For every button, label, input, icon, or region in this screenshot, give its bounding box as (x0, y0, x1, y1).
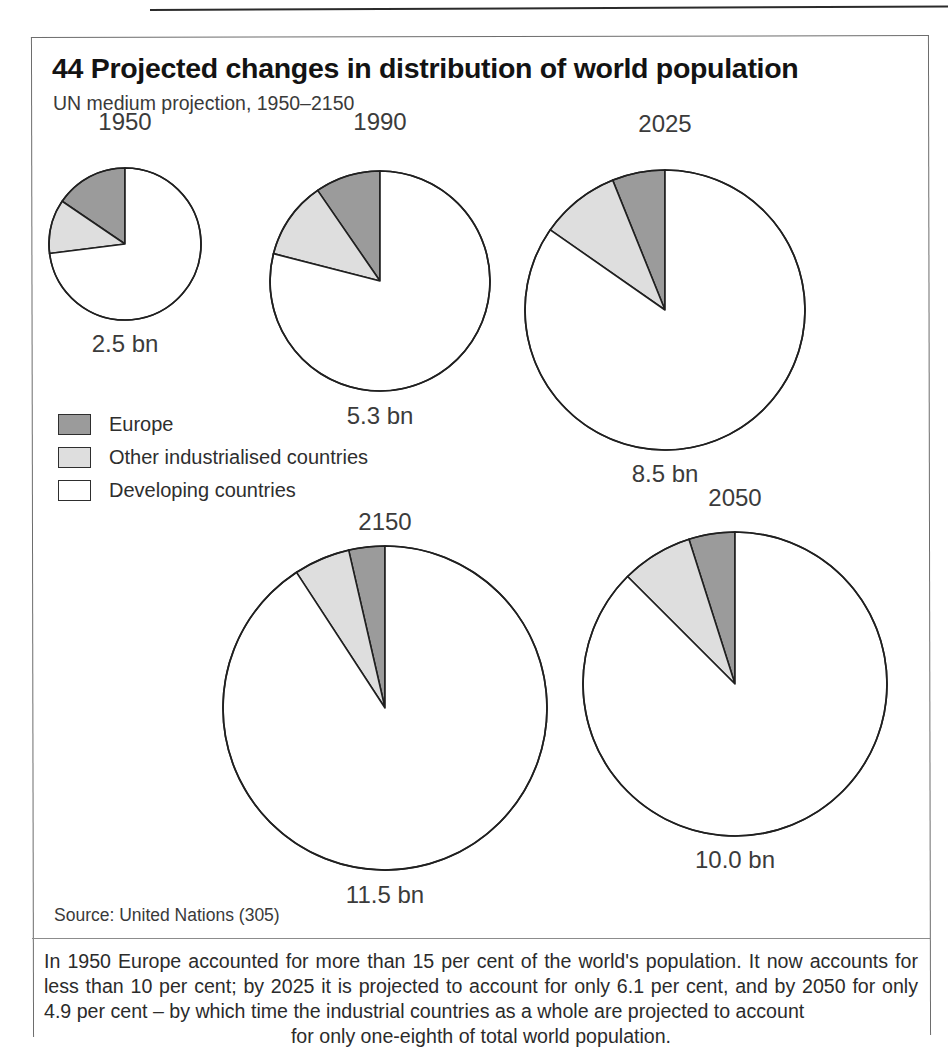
pie-svg-2050 (580, 529, 890, 839)
caption-last-line: for only one-eighth of total world popul… (44, 1024, 918, 1049)
pie-slice-developing-2150 (223, 546, 547, 870)
legend-item-europe: Europe (58, 408, 368, 441)
pie-year-label-2050: 2050 (580, 484, 890, 512)
legend-swatch-europe (58, 414, 91, 435)
figure-content: 44 Projected changes in distribution of … (32, 36, 930, 1026)
caption-body: In 1950 Europe accounted for more than 1… (44, 950, 918, 1022)
pie-slice-developing-2050 (583, 532, 887, 836)
pie-total-label-1950: 2.5 bn (46, 330, 204, 358)
pie-2050: 205010.0 bn (580, 36, 890, 936)
pie-year-label-2150: 2150 (220, 508, 550, 536)
legend-label-europe: Europe (109, 413, 174, 436)
pie-total-label-2050: 10.0 bn (580, 846, 890, 874)
legend-item-other-industrialised: Other industrialised countries (58, 441, 368, 474)
legend-swatch-developing (58, 480, 91, 501)
legend-label-developing: Developing countries (109, 479, 296, 502)
pie-svg-1950 (46, 165, 204, 323)
source-line: Source: United Nations (305) (54, 905, 280, 926)
pie-svg-2150 (220, 543, 550, 873)
figure-caption: In 1950 Europe accounted for more than 1… (44, 949, 918, 1049)
page-edge-line (150, 6, 948, 11)
caption-divider (32, 938, 930, 939)
pie-year-label-1950: 1950 (46, 108, 204, 136)
legend-label-other-industrialised: Other industrialised countries (109, 446, 368, 469)
legend-swatch-other-industrialised (58, 447, 91, 468)
legend-item-developing: Developing countries (58, 474, 368, 507)
chart-legend: Europe Other industrialised countries De… (58, 408, 368, 507)
